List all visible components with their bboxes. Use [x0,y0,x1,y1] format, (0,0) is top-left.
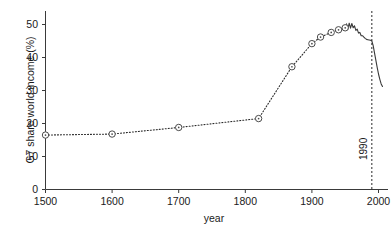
x-tick-label-2000: 2000 [367,195,391,207]
y-tick-label-50: 50 [26,18,38,30]
x-tick-label-1800: 1800 [234,195,258,207]
data-point-center [311,43,313,45]
data-point-center [291,66,293,68]
x-tick-label-1700: 1700 [167,195,191,207]
data-point-center [330,32,332,34]
x-axis-title: year [204,212,225,224]
x-tick-label-1900: 1900 [300,195,324,207]
data-point-center [320,36,322,38]
y-axis-ticks [42,25,46,190]
annotation-label-1990: 1990 [358,137,369,160]
data-point-center [338,29,340,31]
chart-container: 0 10 20 30 40 50 1500 1600 1700 1800 190… [0,0,392,234]
data-point-center [45,134,47,136]
series-markers [42,25,348,139]
data-point-center [178,127,180,129]
x-axis-tick-labels: 1500 1600 1700 1800 1900 2000 [34,195,391,207]
y-axis-title: G7 share world income (%) [24,36,36,163]
series-historical-dotted [46,28,346,135]
chart-plot-area: 0 10 20 30 40 50 1500 1600 1700 1800 190… [0,0,392,234]
data-point-center [258,118,260,120]
data-point-center [111,133,113,135]
x-axis-ticks [46,190,379,194]
data-point-center [344,27,346,29]
y-tick-label-0: 0 [32,183,38,195]
x-tick-label-1500: 1500 [34,195,58,207]
x-tick-label-1600: 1600 [100,195,124,207]
series-annual-solid [345,23,382,86]
